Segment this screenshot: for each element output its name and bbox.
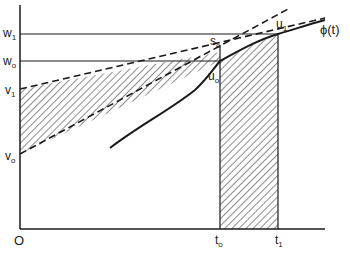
diagram-svg [0,0,350,264]
label-u1: u1 [276,18,287,30]
label-s0: so [210,35,220,47]
label-phi-t: ϕ(t) [320,23,340,36]
label-w1: w1 [3,27,16,39]
label-v1: v1 [5,84,15,96]
diagram-canvas: w1 wo v1 vo O to t1 so uo u1 ϕ(t) [0,0,350,264]
label-u0: uo [208,70,219,82]
label-v0: vo [5,150,15,162]
label-origin: O [14,234,24,247]
label-t0: to [215,234,223,246]
label-t1: t1 [275,234,283,246]
label-w0: wo [3,55,16,67]
left-hatched-region [20,52,220,154]
right-hatched-region [220,34,278,229]
